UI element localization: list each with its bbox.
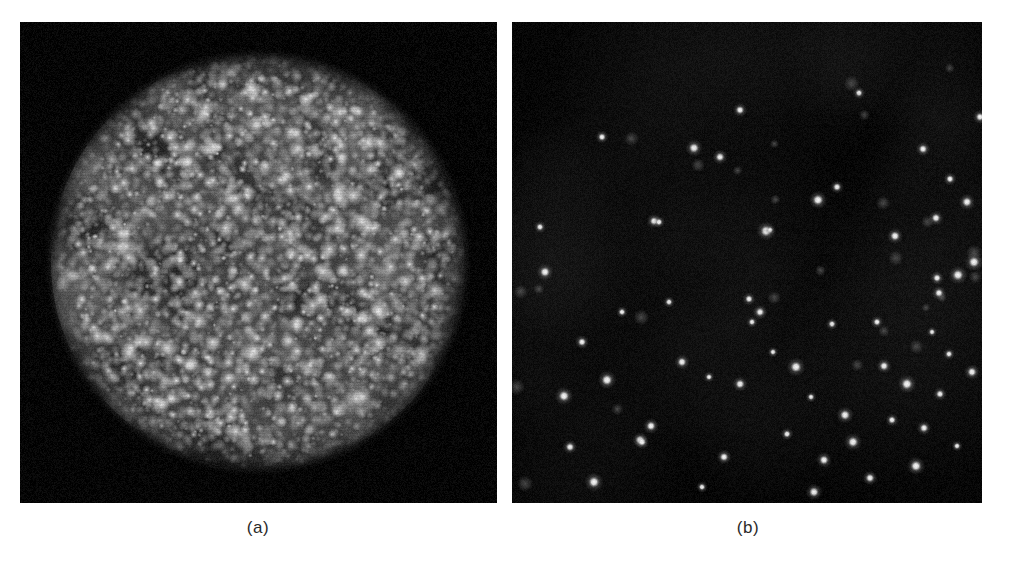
point-sources-canvas — [512, 22, 982, 503]
panel-a-image — [20, 22, 497, 503]
panel-a-caption: (a) — [218, 518, 298, 538]
panel-b-caption: (b) — [708, 518, 788, 538]
panel-b-image — [512, 22, 982, 503]
figure-root: (a) (b) — [0, 0, 1010, 566]
speckled-disc-canvas — [20, 22, 497, 503]
